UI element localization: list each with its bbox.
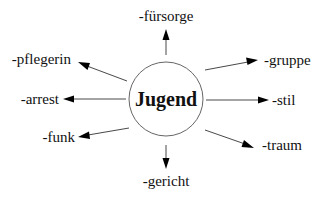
arrow-head-icon: [78, 132, 90, 140]
word-map-diagram: Jugend -fürsorge -gruppe -stil -traum -g…: [0, 0, 318, 200]
center-node: Jugend: [129, 62, 203, 136]
branch-label: -stil: [272, 92, 295, 108]
arrow-head-icon: [258, 97, 269, 104]
branch-label: -pflegerin: [12, 51, 72, 67]
branch-traum: -traum: [205, 130, 302, 153]
arrow-line: [205, 62, 248, 70]
branch-label: -gericht: [143, 173, 190, 189]
arrow-head-icon: [163, 29, 170, 40]
arrow-head-icon: [163, 158, 170, 169]
branch-gericht: -gericht: [143, 145, 190, 189]
branch-label: -funk: [43, 129, 76, 145]
arrow-head-icon: [78, 62, 90, 70]
arrow-head-icon: [63, 96, 74, 103]
center-label: Jugend: [135, 88, 197, 111]
branch-label: -arrest: [21, 91, 60, 107]
branch-funk: -funk: [43, 128, 130, 145]
branch-arrest: -arrest: [21, 91, 126, 107]
arrow-head-icon: [242, 140, 255, 148]
branch-label: -fürsorge: [139, 8, 194, 24]
branch-stil: -stil: [206, 92, 295, 108]
arrow-line: [205, 130, 245, 144]
branch-label: -traum: [262, 137, 302, 153]
arrow-head-icon: [246, 58, 258, 66]
arrow-line: [88, 128, 129, 135]
branch-fuersorge: -fürsorge: [139, 8, 194, 55]
branch-gruppe: -gruppe: [205, 52, 311, 70]
arrow-line: [87, 66, 127, 81]
branch-label: -gruppe: [264, 52, 311, 68]
branch-pflegerin: -pflegerin: [12, 51, 127, 81]
